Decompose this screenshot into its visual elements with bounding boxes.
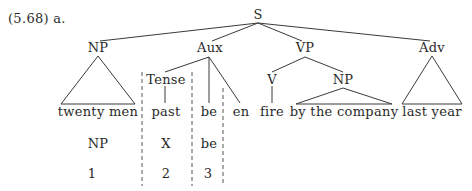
sd-term-3: be [201,137,218,151]
sd-term-2: X [161,137,171,151]
branch-s-adv [258,23,430,41]
sd-index-1: 1 [88,167,97,181]
branch-vp-np [305,57,343,72]
node-tense: Tense [146,73,186,87]
branch-vp-v [272,57,305,72]
leaf-past: past [151,105,180,119]
np-object-triangle [296,88,392,104]
node-vp: VP [296,41,315,55]
leaf-fire: fire [260,105,284,119]
node-adv: Adv [419,41,445,55]
node-np-object: NP [333,73,354,87]
leaf-be: be [201,105,218,119]
syntax-tree-diagram: (5.68) a. S NP Aux VP Adv Tense V NP twe… [0,0,472,191]
sd-index-2: 2 [162,167,171,181]
tree-branches [0,0,472,191]
node-s: S [253,8,262,22]
leaf-twenty-men: twenty men [58,105,139,119]
np-subject-triangle [61,56,135,104]
node-v: V [267,73,277,87]
leaf-last-year: last year [402,105,462,119]
sd-term-1: NP [88,137,109,151]
branch-aux-en [209,57,240,103]
node-aux: Aux [197,41,223,55]
node-np-subject: NP [88,41,109,55]
sd-index-3: 3 [204,167,213,181]
leaf-by-the-company: by the company [290,105,399,119]
branch-aux-tense [165,57,209,72]
example-label: (5.68) a. [8,12,66,26]
adv-triangle [402,56,462,104]
leaf-en: en [233,105,250,119]
